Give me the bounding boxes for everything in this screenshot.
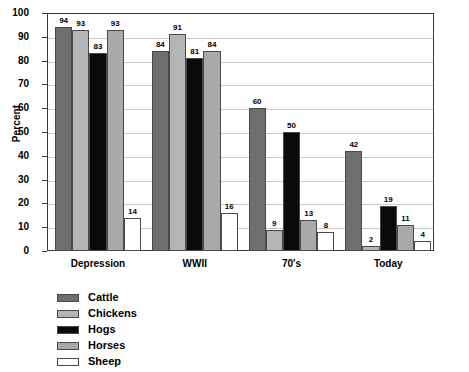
legend-item: Hogs (57, 322, 137, 337)
bar (152, 51, 169, 251)
bar (72, 30, 89, 251)
bar-value-label: 93 (103, 20, 128, 28)
bar-value-label: 19 (376, 196, 401, 204)
bar-value-label: 13 (296, 210, 321, 218)
y-tick-label: 80 (1, 56, 29, 66)
legend-label: Sheep (88, 356, 121, 367)
bar-chart: Percent 1009080706050403020100 949383931… (0, 0, 469, 372)
bar (107, 30, 124, 251)
y-tick-label: 40 (1, 151, 29, 161)
y-tick-label: 10 (1, 222, 29, 232)
bar-value-label: 91 (165, 24, 190, 32)
legend-label: Chickens (88, 308, 137, 319)
bar-value-label: 50 (279, 122, 304, 130)
legend-label: Horses (88, 340, 125, 351)
bar (203, 51, 220, 251)
bar-value-label: 4 (410, 231, 435, 239)
y-tick-label: 60 (1, 103, 29, 113)
legend-label: Cattle (88, 292, 119, 303)
bar-value-label: 11 (393, 215, 418, 223)
y-tick-label: 20 (1, 198, 29, 208)
legend-item: Cattle (57, 290, 137, 305)
bar (89, 53, 106, 251)
bar (380, 206, 397, 251)
bar (55, 27, 72, 251)
bar (169, 34, 186, 251)
legend-swatch (57, 358, 79, 366)
legend-swatch (57, 342, 79, 350)
y-tick-label: 50 (1, 127, 29, 137)
bar (249, 108, 266, 251)
x-category-label: WWII (145, 258, 245, 269)
x-category-label: 70's (242, 258, 342, 269)
bar (317, 232, 334, 251)
legend-label: Hogs (88, 324, 116, 335)
bars-layer: 949383931484918184166095013842219114 (47, 13, 434, 251)
chart-legend: CattleChickensHogsHorsesSheep (57, 290, 137, 370)
y-tick-label: 70 (1, 79, 29, 89)
y-tick-label: 30 (1, 175, 29, 185)
legend-swatch (57, 294, 79, 302)
legend-item: Horses (57, 338, 137, 353)
bar (362, 246, 379, 251)
y-tick-label: 90 (1, 32, 29, 42)
x-category-label: Today (338, 258, 438, 269)
bar-value-label: 93 (68, 20, 93, 28)
bar-value-label: 8 (313, 222, 338, 230)
legend-item: Chickens (57, 306, 137, 321)
y-tick-mark (42, 251, 47, 252)
bar (124, 218, 141, 251)
y-tick-label: 100 (1, 8, 29, 18)
legend-swatch (57, 326, 79, 334)
bar (186, 58, 203, 251)
bar (414, 241, 431, 251)
bar (221, 213, 238, 251)
bar-value-label: 14 (120, 208, 145, 216)
legend-item: Sheep (57, 354, 137, 369)
bar (266, 230, 283, 251)
bar-value-label: 16 (217, 203, 242, 211)
legend-swatch (57, 310, 79, 318)
bar-value-label: 42 (341, 141, 366, 149)
bar (283, 132, 300, 251)
bar-value-label: 84 (199, 41, 224, 49)
x-category-label: Depression (48, 258, 148, 269)
y-tick-label: 0 (1, 246, 29, 256)
bar-value-label: 60 (245, 98, 270, 106)
